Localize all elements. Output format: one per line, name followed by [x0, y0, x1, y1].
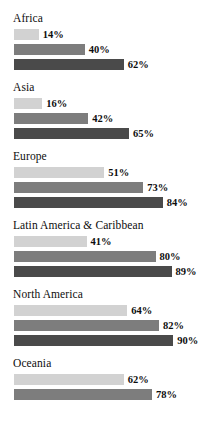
bar-value-label: 16%	[46, 98, 67, 109]
bar-row: 62%	[0, 373, 207, 386]
bar-value-label: 40%	[89, 44, 110, 55]
bar-value-label: 65%	[133, 128, 154, 139]
bar-row: 90%	[0, 334, 207, 347]
bar-row: 78%	[0, 388, 207, 401]
bar	[14, 251, 156, 262]
bar-value-label: 62%	[128, 59, 149, 70]
bar-value-label: 14%	[43, 29, 64, 40]
bar-row: 14%	[0, 28, 207, 41]
bar	[14, 320, 159, 331]
bar-row: 40%	[0, 43, 207, 56]
bar	[14, 29, 39, 40]
region-label: Latin America & Caribbean	[0, 219, 207, 232]
bar-value-label: 89%	[176, 266, 197, 277]
bar-value-label: 62%	[128, 374, 149, 385]
bar-value-label: 82%	[163, 320, 184, 331]
bar-value-label: 78%	[156, 389, 177, 400]
bar-value-label: 42%	[92, 113, 113, 124]
region-label: Asia	[0, 81, 207, 94]
bar-row: 65%	[0, 127, 207, 140]
bar	[14, 59, 124, 70]
bar	[14, 266, 172, 277]
bar-value-label: 84%	[167, 197, 188, 208]
bar-value-label: 80%	[160, 251, 181, 262]
bar-value-label: 64%	[131, 305, 152, 316]
bar-row: 64%	[0, 304, 207, 317]
region-label: North America	[0, 288, 207, 301]
region-label: Africa	[0, 12, 207, 25]
region-group: Europe51%73%84%	[0, 150, 207, 209]
bar-value-label: 41%	[91, 236, 112, 247]
bar-row: 62%	[0, 58, 207, 71]
bar	[14, 305, 127, 316]
bar	[14, 374, 124, 385]
bar-row: 80%	[0, 250, 207, 263]
region-group: Africa14%40%62%	[0, 12, 207, 71]
bar-row: 42%	[0, 112, 207, 125]
bar	[14, 128, 129, 139]
bar-row: 16%	[0, 97, 207, 110]
region-group: Asia16%42%65%	[0, 81, 207, 140]
bar	[14, 335, 173, 346]
bar	[14, 182, 143, 193]
region-label: Europe	[0, 150, 207, 163]
bar-value-label: 51%	[108, 167, 129, 178]
bar-row: 82%	[0, 319, 207, 332]
region-label: Oceania	[0, 357, 207, 370]
region-group: Oceania62%78%	[0, 357, 207, 401]
bar-row: 84%	[0, 196, 207, 209]
bar-value-label: 73%	[147, 182, 168, 193]
bar	[14, 113, 88, 124]
region-group: North America64%82%90%	[0, 288, 207, 347]
bar	[14, 389, 152, 400]
bar	[14, 167, 104, 178]
bar-row: 51%	[0, 166, 207, 179]
bar-value-label: 90%	[177, 335, 198, 346]
bar-row: 73%	[0, 181, 207, 194]
bar	[14, 98, 42, 109]
bar	[14, 197, 163, 208]
region-group: Latin America & Caribbean41%80%89%	[0, 219, 207, 278]
bar-row: 89%	[0, 265, 207, 278]
bar	[14, 44, 85, 55]
grouped-bar-chart: Africa14%40%62%Asia16%42%65%Europe51%73%…	[0, 0, 207, 445]
bar-row: 41%	[0, 235, 207, 248]
bar	[14, 236, 87, 247]
